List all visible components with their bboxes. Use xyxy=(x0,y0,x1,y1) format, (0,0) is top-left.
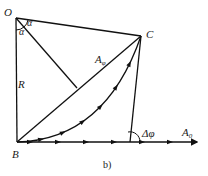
baseline-arrow-icon xyxy=(111,140,117,144)
baseline-arrow-icon xyxy=(167,140,173,144)
label-c: C xyxy=(146,28,154,40)
arc-arrow-icon xyxy=(126,60,133,67)
chord-a-phi xyxy=(17,36,141,142)
line-ob-radius xyxy=(16,18,17,142)
phasor-diagram: O C B R α α Aφ Δφ A0 b) xyxy=(0,0,208,176)
arc-arrow-icon xyxy=(59,129,66,135)
baseline-arrow-icon xyxy=(83,140,89,144)
label-b: B xyxy=(12,148,19,160)
label-alpha-left: α xyxy=(19,26,25,37)
label-delta-phi: Δφ xyxy=(141,127,155,139)
label-r: R xyxy=(17,78,25,90)
label-alpha-top: α xyxy=(27,17,33,28)
arc-arrows xyxy=(38,60,133,142)
label-o: O xyxy=(4,6,12,18)
line-oc xyxy=(16,18,141,36)
figure-caption: b) xyxy=(103,159,111,171)
label-a0: A0 xyxy=(181,126,193,140)
line-o-perpendicular xyxy=(16,18,77,88)
baseline-arrow-icon xyxy=(55,140,61,144)
label-a-phi: Aφ xyxy=(94,53,106,67)
